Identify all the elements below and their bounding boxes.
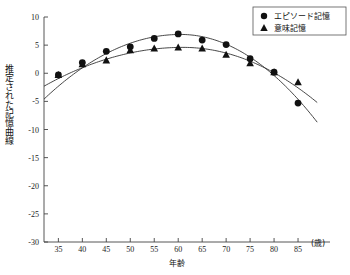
x-tick-label: 75 xyxy=(246,245,254,254)
y-tick-label: -10 xyxy=(28,126,39,135)
data-point-circle xyxy=(199,37,206,44)
data-point-triangle xyxy=(174,43,182,50)
x-tick-label: 65 xyxy=(198,245,206,254)
x-tick-label: 85 xyxy=(294,245,302,254)
legend-label: 意味記憶 xyxy=(274,23,306,33)
y-tick-label: 0 xyxy=(35,69,39,78)
y-tick-label: -30 xyxy=(28,238,39,247)
x-tick-label: 40 xyxy=(78,245,86,254)
data-point-circle xyxy=(175,30,182,37)
axes-group xyxy=(44,17,330,242)
y-tick-label: 5 xyxy=(35,41,39,50)
y-tick-label: 10 xyxy=(31,13,39,22)
data-point-triangle xyxy=(294,78,302,85)
legend-label: エピソード記憶 xyxy=(274,11,330,21)
legend: エピソード記憶意味記憶 xyxy=(253,7,346,35)
legend-marker-circle xyxy=(261,13,267,19)
y-tick-label: -5 xyxy=(32,97,39,106)
x-tick-label: 70 xyxy=(222,245,230,254)
fit-curves-group xyxy=(44,34,317,122)
chart-figure: 推定された記憶曲線 1050-5-10-15-20-25-30 35404550… xyxy=(0,0,350,275)
plot-canvas: 1050-5-10-15-20-25-30 354045505560657075… xyxy=(0,0,350,275)
y-tick-label: -20 xyxy=(28,182,39,191)
y-tick-label: -15 xyxy=(28,154,39,163)
data-point-triangle xyxy=(150,45,158,52)
data-point-circle xyxy=(295,100,302,107)
x-tick-label: 80 xyxy=(270,245,278,254)
data-point-circle xyxy=(223,41,230,48)
data-markers-group xyxy=(55,30,302,106)
y-tick-group: 1050-5-10-15-20-25-30 xyxy=(28,13,48,247)
y-tick-label: -25 xyxy=(28,210,39,219)
x-tick-label: 50 xyxy=(126,245,134,254)
x-axis-unit-label: (歳) xyxy=(311,238,325,248)
x-axis-title: 年齢 xyxy=(169,258,185,268)
x-tick-group: 3540455055606570758085 xyxy=(54,238,302,254)
x-tick-label: 35 xyxy=(54,245,62,254)
x-tick-label: 60 xyxy=(174,245,182,254)
data-point-circle xyxy=(151,35,158,42)
data-point-circle xyxy=(103,48,110,55)
x-tick-label: 45 xyxy=(102,245,110,254)
x-tick-label: 55 xyxy=(150,245,158,254)
